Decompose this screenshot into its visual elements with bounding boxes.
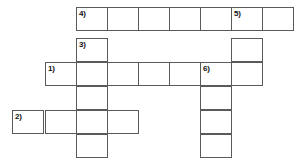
crossword-cell[interactable] (231, 38, 263, 62)
crossword-cell[interactable] (231, 62, 263, 86)
clue-number-label: 1) (48, 63, 55, 74)
crossword-cell[interactable] (169, 62, 201, 86)
crossword-cell[interactable] (138, 7, 170, 31)
clue-number-label: 6) (203, 63, 210, 74)
crossword-cell[interactable] (76, 62, 108, 86)
crossword-cell[interactable] (107, 110, 139, 134)
crossword-cell[interactable] (45, 110, 77, 134)
crossword-cell[interactable]: 4) (76, 7, 108, 31)
crossword-cell[interactable] (76, 110, 108, 134)
crossword-cell[interactable] (200, 110, 232, 134)
crossword-cell[interactable] (262, 7, 294, 31)
crossword-puzzle: 4)5)3)1)6)2) (0, 0, 305, 164)
crossword-cell[interactable] (200, 7, 232, 31)
crossword-cell[interactable] (76, 86, 108, 110)
crossword-cell[interactable] (107, 62, 139, 86)
crossword-cell[interactable]: 6) (200, 62, 232, 86)
crossword-cell[interactable] (76, 134, 108, 158)
crossword-cell[interactable]: 1) (45, 62, 77, 86)
crossword-cell[interactable] (138, 62, 170, 86)
crossword-cell[interactable] (107, 7, 139, 31)
clue-number-label: 2) (15, 111, 22, 122)
clue-number-label: 5) (234, 8, 241, 19)
crossword-cell[interactable]: 3) (76, 38, 108, 62)
crossword-grid: 4)5)3)1)6)2) (0, 0, 305, 164)
crossword-cell[interactable] (200, 134, 232, 158)
clue-number-label: 3) (79, 39, 86, 50)
crossword-cell[interactable]: 2) (12, 110, 44, 134)
crossword-cell[interactable]: 5) (231, 7, 263, 31)
clue-number-label: 4) (79, 8, 86, 19)
crossword-cell[interactable] (169, 7, 201, 31)
crossword-cell[interactable] (200, 86, 232, 110)
